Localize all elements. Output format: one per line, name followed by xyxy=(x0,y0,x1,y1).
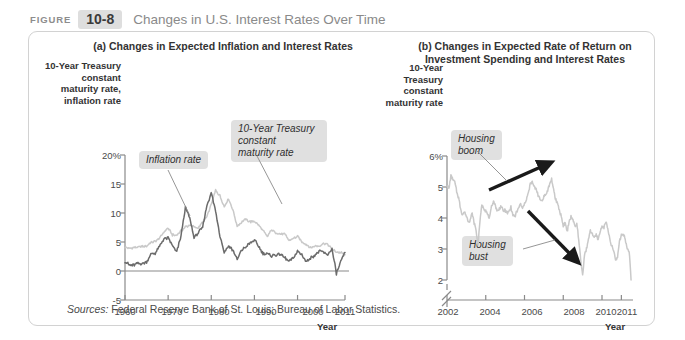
chart-b-x-axis-title: Year xyxy=(605,321,625,332)
chart-b-plot xyxy=(365,38,655,308)
figure-container: FIGURE 10-8 Changes in U.S. Interest Rat… xyxy=(0,0,685,340)
chart-panel-a: (a) Changes in Expected Inflation and In… xyxy=(35,38,365,308)
source-note: Sources: Federal Reserve Bank of St. Lou… xyxy=(67,303,400,315)
figure-panel: (a) Changes in Expected Inflation and In… xyxy=(28,31,655,326)
chart-panel-b: (b) Changes in Expected Rate of Return o… xyxy=(365,38,655,308)
figure-number-badge: 10-8 xyxy=(78,10,122,29)
figure-header: FIGURE 10-8 Changes in U.S. Interest Rat… xyxy=(30,9,385,29)
figure-word-label: FIGURE xyxy=(30,14,71,25)
chart-a-plot xyxy=(35,38,365,308)
figure-title: Changes in U.S. Interest Rates Over Time xyxy=(129,12,385,27)
source-label: Sources: xyxy=(67,303,108,315)
chart-a-x-axis-title: Year xyxy=(317,321,337,332)
source-text: Federal Reserve Bank of St. Louis; Burea… xyxy=(108,303,400,315)
